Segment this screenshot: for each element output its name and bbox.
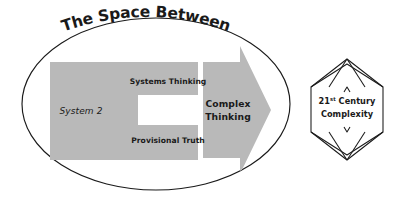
diagram-canvas: The Space Between Systems Thinking Syste… <box>0 0 404 205</box>
label-year-number: 21 <box>319 96 331 106</box>
label-systems-thinking: Systems Thinking <box>130 77 207 86</box>
space-between-diagram: The Space Between Systems Thinking Syste… <box>0 0 404 205</box>
polyhedron-top-spoke-left <box>329 59 347 87</box>
label-complexity: Complexity <box>321 109 374 119</box>
label-complex: Complex <box>205 98 250 109</box>
polyhedron-bottom-spoke-right <box>347 132 365 160</box>
label-century-word: Century <box>339 96 376 106</box>
polyhedron-bottom-spoke-left <box>329 132 347 160</box>
polyhedron-bottom-notch-center <box>344 127 350 132</box>
polyhedron-top-fan <box>311 59 383 87</box>
label-provisional-truth: Provisional Truth <box>131 136 205 145</box>
label-system-2: System 2 <box>60 106 103 116</box>
polyhedron-top-notch-center <box>344 87 350 92</box>
polyhedron-top-spoke-right <box>347 59 365 87</box>
polyhedron-bottom-fan <box>311 132 383 160</box>
label-thinking: Thinking <box>205 111 251 122</box>
label-21st-century: 21st Century <box>319 96 377 106</box>
